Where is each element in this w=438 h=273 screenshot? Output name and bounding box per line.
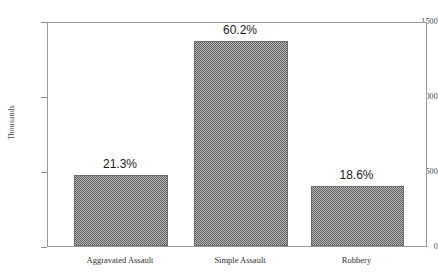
bar-aggravated-assault [74,175,168,246]
y-axis-tick-0 [41,247,47,248]
plot-area [47,22,427,247]
data-label-robbery: 18.6% [310,169,403,182]
data-label-aggravated-assault: 21.3% [73,158,167,171]
data-label-simple-assault: 60.2% [193,24,287,37]
x-axis-label-aggravated-assault: Aggravated Assault [60,255,180,265]
bar-simple-assault [194,41,288,246]
y-axis-title: Thousands [7,93,16,153]
x-axis-label-simple-assault: Simple Assault [185,255,295,265]
x-axis-label-robbery: Robbery [305,255,408,265]
bar-robbery [311,186,404,246]
bar-chart-figure: 1500 1000 500 0 Thousands 21.3% 60.2% 18… [0,0,438,273]
